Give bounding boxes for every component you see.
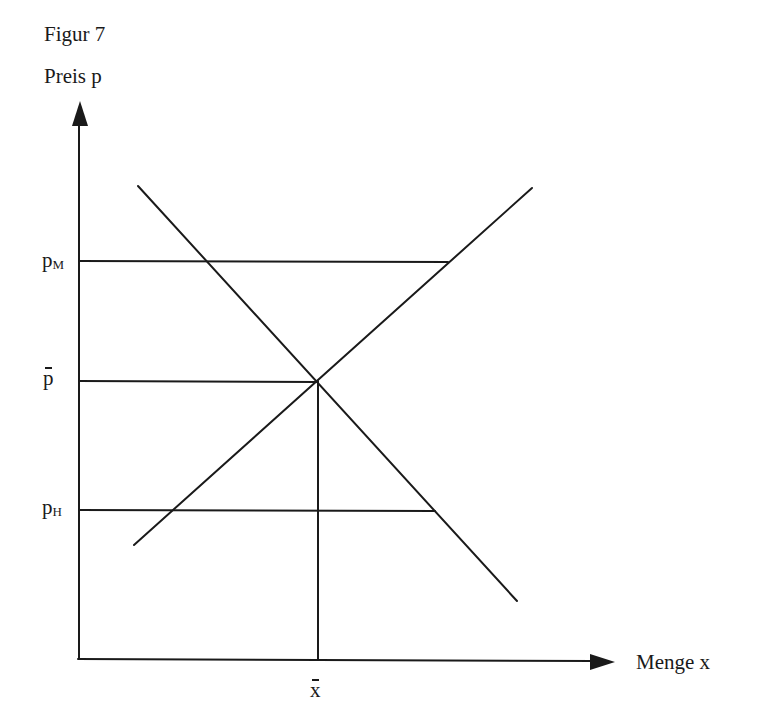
price-line-pH — [79, 510, 435, 511]
tick-base: p — [42, 248, 53, 272]
tick-label-xbar: x — [310, 680, 321, 701]
y-axis-label: Preis p — [44, 66, 102, 87]
demand-curve — [138, 186, 517, 601]
tick-label-pH: pH — [42, 497, 62, 518]
tick-base-overbar: p — [43, 368, 54, 389]
tick-subscript: M — [53, 257, 65, 272]
tick-base: p — [42, 495, 53, 519]
figure-title: Figur 7 — [44, 24, 105, 45]
price-line-pM — [79, 261, 448, 262]
diagram-canvas — [0, 0, 760, 726]
tick-base-overbar: x — [310, 680, 321, 701]
tick-subscript: H — [53, 504, 62, 519]
x-axis-arrow-icon — [590, 654, 615, 670]
x-axis-label: Menge x — [636, 652, 710, 673]
supply-curve — [134, 188, 532, 545]
tick-label-pM: pM — [42, 250, 64, 271]
x-axis — [78, 659, 594, 661]
supply-demand-figure: Figur 7 Preis p Menge x pM p pH x — [0, 0, 760, 726]
tick-label-pbar: p — [43, 368, 54, 389]
price-line-pbar — [79, 381, 318, 382]
y-axis-arrow-icon — [72, 101, 88, 126]
